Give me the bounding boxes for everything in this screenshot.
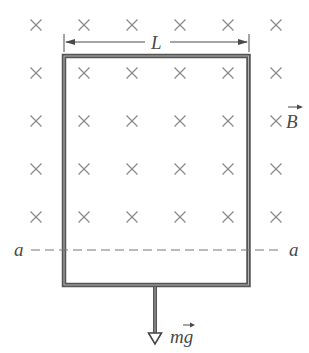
line-label-right: a	[289, 239, 299, 260]
magnetic-loop-diagram: L a a mg B	[0, 0, 309, 353]
field-into-page-icon	[223, 68, 234, 79]
field-into-page-icon	[31, 20, 42, 31]
field-into-page-icon	[127, 68, 138, 79]
arrowhead-right-icon	[238, 39, 248, 45]
field-into-page-icon	[31, 212, 42, 223]
field-into-page-icon	[79, 212, 90, 223]
field-into-page-icon	[271, 20, 282, 31]
hollow-arrowhead-icon	[149, 333, 162, 344]
field-into-page-icon	[223, 116, 234, 127]
field-into-page-icon	[223, 20, 234, 31]
field-into-page-icon	[79, 116, 90, 127]
field-into-page-icon	[175, 68, 186, 79]
field-into-page-icon	[127, 164, 138, 175]
field-into-page-icon	[271, 68, 282, 79]
field-vector-arrow-icon	[288, 105, 303, 110]
field-label: B	[286, 111, 298, 132]
line-label-left: a	[14, 239, 24, 260]
field-into-page-icon	[271, 116, 282, 127]
field-into-page-icon	[271, 164, 282, 175]
field-into-page-icon	[175, 20, 186, 31]
field-into-page-icon	[223, 164, 234, 175]
field-into-page-icon	[79, 164, 90, 175]
field-into-page-icon	[127, 212, 138, 223]
weight-label: mg	[170, 326, 193, 347]
field-into-page-icon	[175, 164, 186, 175]
wire-loop	[64, 56, 249, 285]
width-label: L	[150, 32, 162, 53]
field-into-page-icon	[175, 212, 186, 223]
field-into-page-icon	[31, 116, 42, 127]
weight-vector	[149, 287, 162, 344]
field-into-page-icon	[271, 212, 282, 223]
arrowhead-left-icon	[65, 39, 75, 45]
field-into-page-icon	[223, 212, 234, 223]
field-into-page-icon	[127, 116, 138, 127]
field-into-page-icon	[31, 68, 42, 79]
field-into-page-icon	[79, 20, 90, 31]
field-into-page-icon	[127, 20, 138, 31]
field-into-page-icon	[79, 68, 90, 79]
field-into-page-icon	[31, 164, 42, 175]
field-into-page-icon	[175, 116, 186, 127]
